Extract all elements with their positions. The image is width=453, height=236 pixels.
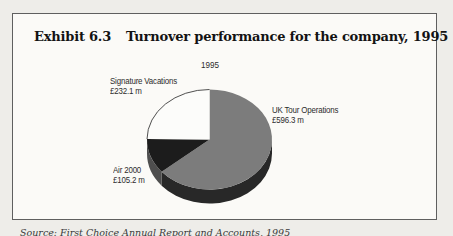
exhibit-number: Exhibit 6.3 [34,29,111,44]
exhibit-title: Turnover performance for the company, 19… [126,29,448,44]
exhibit-box: Exhibit 6.3Turnover performance for the … [12,13,437,220]
slice-value: £105.2 m [113,176,145,186]
pie-chart-year-title: 1995 [183,60,237,70]
slice-value: £232.1 m [110,87,177,97]
slice-label-air-2000: Air 2000 £105.2 m [113,166,145,185]
source-line: Source: First Choice Annual Report and A… [20,227,290,236]
slice-value: £596.3 m [272,116,338,126]
document-page: Exhibit 6.3Turnover performance for the … [0,0,453,236]
exhibit-header: Exhibit 6.3Turnover performance for the … [34,29,448,44]
slice-label-uk-tour-operations: UK Tour Operations £596.3 m [272,106,338,125]
slice-label-signature-vacations: Signature Vacations £232.1 m [110,77,177,96]
